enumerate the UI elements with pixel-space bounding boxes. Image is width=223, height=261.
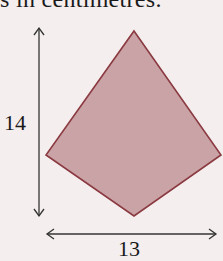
kite-shape: [46, 31, 221, 216]
width-label: 13: [118, 236, 140, 261]
height-dimension-arrow: [34, 28, 44, 216]
kite-diagram: [0, 0, 223, 261]
height-label: 14: [4, 110, 26, 136]
